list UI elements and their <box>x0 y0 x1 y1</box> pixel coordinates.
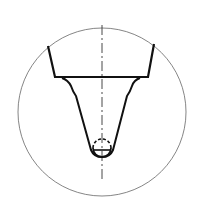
outer-body-outline <box>48 44 154 77</box>
technical-drawing <box>0 0 199 215</box>
drawing-canvas <box>0 0 199 215</box>
tapered-tip-profile <box>62 78 140 157</box>
